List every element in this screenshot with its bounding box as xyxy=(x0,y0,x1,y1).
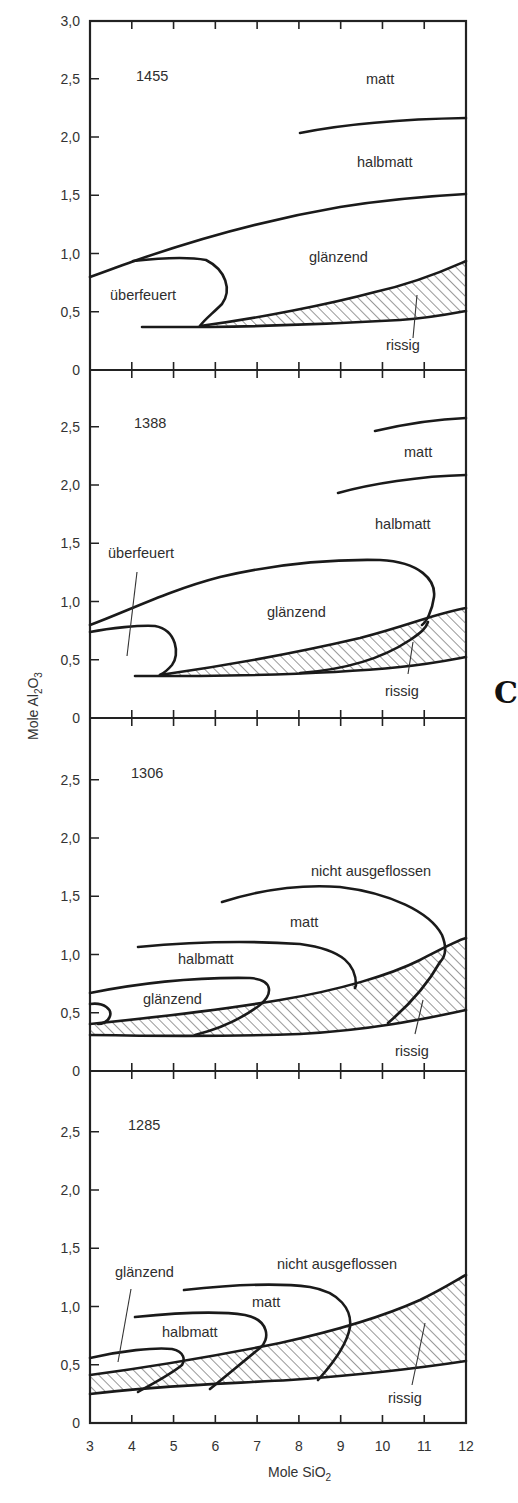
y-tick-label: 2,5 xyxy=(61,1124,81,1140)
region-label-glaenzend: glänzend xyxy=(267,604,326,620)
y-tick-label: 1,5 xyxy=(61,888,81,904)
y-tick-label: 2,5 xyxy=(61,772,81,788)
region-label-matt: matt xyxy=(290,914,318,930)
region-label-nicht-ausgeflossen: nicht ausgeflossen xyxy=(277,1256,397,1272)
region-label-halbmatt: halbmatt xyxy=(375,516,431,532)
x-tick-label: 6 xyxy=(211,1438,219,1454)
y-tick-label: 0 xyxy=(72,1415,80,1431)
y-tick-label: 0 xyxy=(72,362,80,378)
y-tick-label: 3,0 xyxy=(61,13,81,29)
region-label-rissig: rissig xyxy=(386,337,420,353)
y-tick-label: 2,5 xyxy=(61,71,81,87)
x-ticks: 3456789101112 xyxy=(86,21,474,1454)
y-tick-label: 1,5 xyxy=(61,535,81,551)
y-tick-label: 2,0 xyxy=(61,129,81,145)
x-tick-label: 8 xyxy=(295,1438,303,1454)
y-tick-label: 0,5 xyxy=(61,1357,81,1373)
y-tick-label: 1,0 xyxy=(61,594,81,610)
temperature-label: 1285 xyxy=(128,1117,160,1133)
region-label-ueberfeuert: überfeuert xyxy=(110,287,176,303)
y-tick-label: 0,5 xyxy=(61,1005,81,1021)
y-tick-label: 2,0 xyxy=(61,830,81,846)
rissig-hatch xyxy=(90,1275,466,1394)
x-axis-title: Mole SiO2 xyxy=(268,1464,332,1483)
chart-frame xyxy=(90,21,466,1423)
x-tick-label: 10 xyxy=(375,1438,391,1454)
y-ticks: 3,02,52,01,51,00,502,52,01,51,00,502,52,… xyxy=(61,13,99,1432)
region-label-halbmatt: halbmatt xyxy=(357,154,413,170)
y-tick-label: 0,5 xyxy=(61,304,81,320)
y-tick-label: 1,0 xyxy=(61,1299,81,1315)
cropped-glyph: C xyxy=(494,675,518,710)
matt-halbmatt-boundary xyxy=(338,475,466,493)
region-label-rissig: rissig xyxy=(395,1043,429,1059)
region-label-rissig: rissig xyxy=(385,683,419,699)
y-tick-label: 1,5 xyxy=(61,187,81,203)
y-tick-label: 0 xyxy=(72,710,80,726)
matt-nicht-ausgeflossen-boundary xyxy=(222,886,445,962)
panel-1285: 1285 nicht ausgeflossen glänzend matt ha… xyxy=(90,1117,466,1406)
panel-1306: 1306 nicht ausgeflossen matt halbmatt gl… xyxy=(90,765,466,1059)
y-tick-label: 2,0 xyxy=(61,477,81,493)
temperature-label: 1455 xyxy=(136,68,168,84)
region-label-glaenzend: glänzend xyxy=(309,249,368,265)
region-label-matt: matt xyxy=(366,71,394,87)
top-matt-boundary xyxy=(375,418,466,431)
x-tick-label: 5 xyxy=(170,1438,178,1454)
x-tick-label: 9 xyxy=(337,1438,345,1454)
region-label-matt: matt xyxy=(404,444,432,460)
x-tick-label: 4 xyxy=(128,1438,136,1454)
y-tick-label: 1,0 xyxy=(61,947,81,963)
panel-1455: 1455 matt halbmatt glänzend überfeuert r… xyxy=(90,68,466,353)
x-tick-label: 3 xyxy=(86,1438,94,1454)
y-tick-label: 1,5 xyxy=(61,1240,81,1256)
x-tick-label: 12 xyxy=(458,1438,474,1454)
ueberfeuert-pointer xyxy=(127,572,137,656)
x-tick-label: 11 xyxy=(417,1438,432,1454)
y-tick-label: 2,0 xyxy=(61,1182,81,1198)
region-label-glaenzend: glänzend xyxy=(143,991,202,1007)
glaenzend-outer-boundary xyxy=(90,560,434,625)
y-tick-label: 1,0 xyxy=(61,246,81,262)
y-tick-label: 0,5 xyxy=(61,652,81,668)
halbmatt-glaenzend-boundary xyxy=(90,194,466,277)
y-axis-title: Mole Al2O3 xyxy=(25,672,44,740)
region-label-matt: matt xyxy=(252,1294,280,1310)
region-label-halbmatt: halbmatt xyxy=(178,951,234,967)
region-label-ueberfeuert: überfeuert xyxy=(108,545,174,561)
region-label-glaenzend: glänzend xyxy=(115,1264,174,1280)
temperature-label: 1388 xyxy=(134,415,166,431)
ueberfeuert-boundary xyxy=(90,626,176,675)
region-label-nicht-ausgeflossen: nicht ausgeflossen xyxy=(311,863,431,879)
panel-1388: 1388 matt halbmatt überfeuert glänzend r… xyxy=(90,415,466,699)
region-label-halbmatt: halbmatt xyxy=(162,1324,218,1340)
temperature-label: 1306 xyxy=(131,765,163,781)
x-tick-label: 7 xyxy=(253,1438,261,1454)
region-label-rissig: rissig xyxy=(388,1390,422,1406)
y-tick-label: 2,5 xyxy=(61,419,81,435)
matt-halbmatt-boundary xyxy=(300,118,466,133)
y-tick-label: 0 xyxy=(72,1063,80,1079)
